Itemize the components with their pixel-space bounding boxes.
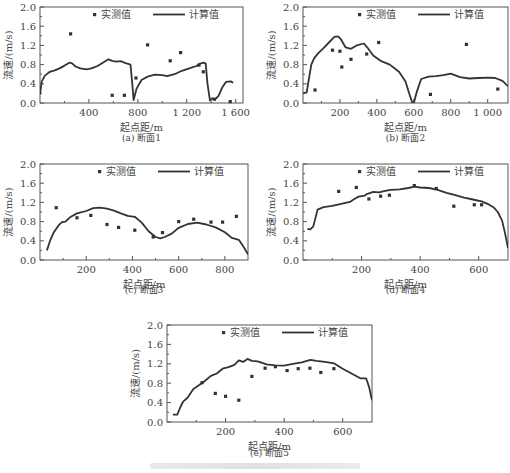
chart-a: 0.00.40.81.21.62.04008001 2001 600流速/(m/… <box>0 0 255 145</box>
y-tick-label: 1.2 <box>283 197 299 208</box>
x-tick-label: 400 <box>367 107 386 118</box>
x-tick-label: 200 <box>352 264 371 275</box>
x-tick-label: 200 <box>330 107 349 118</box>
computed-line <box>303 36 508 103</box>
measured-point <box>429 93 432 96</box>
x-tick-label: 1 000 <box>473 107 502 118</box>
chart-panel-b: 0.00.40.81.21.62.02004006008001 000流速/(m… <box>255 0 510 145</box>
x-axis-label: 起点距/m <box>384 122 427 133</box>
y-tick-label: 1.2 <box>20 197 36 208</box>
measured-point <box>89 214 92 217</box>
chart-e: 0.00.40.81.21.62.0200400600流速/(m/s)起点距/m… <box>120 290 390 460</box>
measured-point <box>111 94 114 97</box>
figure-caption-faded <box>150 463 360 469</box>
x-tick-label: 1 200 <box>172 107 201 118</box>
measured-point <box>146 43 149 46</box>
measured-point <box>331 49 334 52</box>
measured-point <box>161 231 164 234</box>
x-tick-label: 600 <box>169 264 188 275</box>
x-tick-label: 1 600 <box>221 107 250 118</box>
y-axis-label: 流速/(m/s) <box>2 30 14 79</box>
measured-point <box>134 76 137 79</box>
measured-point <box>209 221 212 224</box>
y-tick-label: 0.4 <box>20 235 36 246</box>
plot-frame <box>303 164 508 260</box>
measured-point <box>221 221 224 224</box>
measured-point <box>264 367 267 370</box>
measured-point <box>274 365 277 368</box>
measured-point <box>202 70 205 73</box>
y-tick-label: 0.8 <box>147 378 163 389</box>
measured-point <box>192 218 195 221</box>
y-tick-label: 0.8 <box>20 216 36 227</box>
y-tick-label: 1.2 <box>147 358 163 369</box>
y-axis-label: 流速/(m/s) <box>129 349 141 398</box>
y-axis-label: 流速/(m/s) <box>265 187 277 236</box>
legend-label-computed: 计算值 <box>318 326 348 338</box>
legend-label-measured: 实测值 <box>106 165 136 177</box>
legend: 实测值计算值 <box>93 8 219 20</box>
measured-point <box>105 223 108 226</box>
computed-line <box>307 187 508 248</box>
measured-point <box>133 229 136 232</box>
y-tick-label: 1.6 <box>20 21 36 32</box>
measured-point <box>297 367 300 370</box>
measured-point <box>201 381 204 384</box>
measured-point <box>465 43 468 46</box>
measured-point <box>313 88 316 91</box>
y-tick-label: 0.4 <box>147 397 163 408</box>
measured-point <box>473 203 476 206</box>
measured-point <box>319 371 322 374</box>
y-tick-label: 0.8 <box>283 216 299 227</box>
measured-point <box>69 32 72 35</box>
y-tick-label: 1.6 <box>147 339 163 350</box>
measured-point <box>308 367 311 370</box>
y-tick-label: 1.6 <box>20 178 36 189</box>
y-tick-label: 0.0 <box>283 98 299 109</box>
y-tick-label: 0.8 <box>20 59 36 70</box>
measured-point <box>337 190 340 193</box>
y-axis-label: 流速/(m/s) <box>2 187 14 236</box>
legend: 实测值计算值 <box>222 326 348 338</box>
legend-label-measured: 实测值 <box>366 8 396 20</box>
legend-marker-measured-icon <box>222 331 225 334</box>
panel-caption: (a) 断面1 <box>122 132 161 143</box>
measured-point <box>177 220 180 223</box>
y-tick-label: 0.0 <box>20 98 36 109</box>
x-tick-label: 400 <box>79 107 98 118</box>
measured-point <box>349 58 352 61</box>
panel-caption: (d) 断面4 <box>386 284 426 295</box>
legend-marker-measured-icon <box>93 13 96 16</box>
x-tick-label: 400 <box>123 264 142 275</box>
measured-point <box>237 399 240 402</box>
measured-point <box>377 41 380 44</box>
chart-panel-c: 0.00.40.81.21.62.0200400600800流速/(m/s)起点… <box>0 145 255 295</box>
legend-label-measured: 实测值 <box>366 165 396 177</box>
y-tick-label: 1.2 <box>20 40 36 51</box>
y-tick-label: 0.0 <box>147 417 163 428</box>
measured-point <box>413 184 416 187</box>
measured-point <box>332 367 335 370</box>
legend-label-computed: 计算值 <box>189 8 219 20</box>
y-tick-label: 0.4 <box>283 235 299 246</box>
x-tick-label: 800 <box>215 264 234 275</box>
x-tick-label: 600 <box>404 107 423 118</box>
chart-b: 0.00.40.81.21.62.02004006008001 000流速/(m… <box>255 0 510 145</box>
computed-line <box>173 359 372 415</box>
measured-point <box>152 235 155 238</box>
measured-point <box>117 226 120 229</box>
legend-label-computed: 计算值 <box>454 165 484 177</box>
measured-point <box>340 65 343 68</box>
measured-point <box>388 194 391 197</box>
measured-point <box>367 197 370 200</box>
panel-caption: (e) 断面5 <box>250 447 289 458</box>
measured-point <box>338 50 341 53</box>
y-tick-label: 2.0 <box>147 320 163 331</box>
measured-point <box>379 195 382 198</box>
measured-point <box>452 205 455 208</box>
legend: 实测值计算值 <box>358 8 484 20</box>
x-tick-label: 400 <box>411 264 430 275</box>
x-tick-label: 600 <box>469 264 488 275</box>
x-tick-label: 400 <box>275 426 294 437</box>
legend: 实测值计算值 <box>98 165 224 177</box>
